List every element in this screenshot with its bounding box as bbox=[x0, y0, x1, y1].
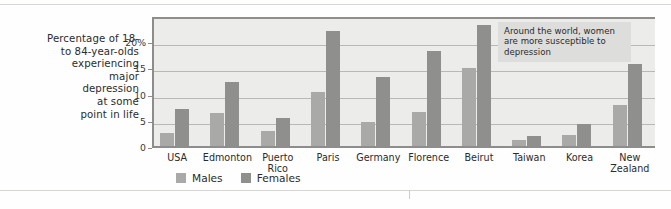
annotation-callout: Around the world, women are more suscept… bbox=[498, 22, 631, 62]
y-tick-mark-0 bbox=[148, 148, 152, 149]
x-axis-label-line-1: Edmonton bbox=[202, 152, 252, 163]
x-axis-label-germany: Germany bbox=[353, 152, 403, 163]
legend-swatch-males-icon bbox=[176, 173, 186, 183]
legend-label-males: Males bbox=[192, 172, 223, 184]
y-tick-mark-20 bbox=[148, 43, 152, 44]
y-tick-label-5: 5 bbox=[108, 116, 146, 127]
x-axis-label-taiwan: Taiwan bbox=[504, 152, 554, 163]
y-tick-mark-10 bbox=[148, 96, 152, 97]
x-axis-label-line-2: Zealand bbox=[605, 163, 655, 174]
x-axis-label-line-1: Beirut bbox=[454, 152, 504, 163]
x-axis-label-puerto-rico: PuertoRico bbox=[253, 152, 303, 174]
x-axis-label-line-1: Florence bbox=[404, 152, 454, 163]
y-tick-label-10: 10 bbox=[108, 90, 146, 101]
y-tick-label-15: 15 bbox=[108, 63, 146, 74]
legend-item-males[interactable]: Males bbox=[176, 172, 223, 184]
legend-swatch-females-icon bbox=[241, 173, 251, 183]
x-axis-label-line-1: New bbox=[605, 152, 655, 163]
y-tick-mark-5 bbox=[148, 122, 152, 123]
y-tick-mark-15 bbox=[148, 69, 152, 70]
x-axis-label-edmonton: Edmonton bbox=[202, 152, 252, 163]
x-axis-label-line-2: Rico bbox=[253, 163, 303, 174]
x-axis-label-new-zealand: NewZealand bbox=[605, 152, 655, 174]
y-tick-label-20: 20% bbox=[108, 37, 146, 48]
x-axis-label-usa: USA bbox=[152, 152, 202, 163]
x-axis-label-line-1: Taiwan bbox=[504, 152, 554, 163]
depression-bar-chart-figure: Percentage of 18- to 84-year-olds experi… bbox=[0, 0, 671, 209]
x-axis-label-line-1: Paris bbox=[303, 152, 353, 163]
y-tick-label-0: 0 bbox=[108, 142, 146, 153]
x-axis-label-line-1: Korea bbox=[554, 152, 604, 163]
x-axis-label-florence: Florence bbox=[404, 152, 454, 163]
x-axis-label-beirut: Beirut bbox=[454, 152, 504, 163]
x-axis-label-line-1: Germany bbox=[353, 152, 403, 163]
x-axis-label-line-1: USA bbox=[152, 152, 202, 163]
x-axis-label-paris: Paris bbox=[303, 152, 353, 163]
x-axis-label-korea: Korea bbox=[554, 152, 604, 163]
x-axis-label-line-1: Puerto bbox=[253, 152, 303, 163]
